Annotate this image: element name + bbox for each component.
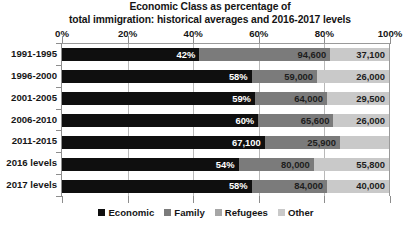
bar-segment-value-label: 67,100: [232, 138, 265, 147]
bar-segment-value-label: 80,000: [281, 160, 314, 169]
bar-segment-family[interactable]: 64,000: [255, 92, 327, 105]
bar-segment-other[interactable]: 29,500: [327, 92, 389, 105]
bar-segment-family[interactable]: 84,000: [252, 180, 327, 193]
bar-segment-economic[interactable]: 59%: [62, 92, 255, 105]
chart-title-line-2: total immigration: historical averages a…: [60, 14, 360, 27]
bar-segment-other[interactable]: 26,000: [333, 114, 389, 127]
bar-segment-value-label: 29,500: [356, 94, 389, 103]
bar-segment-economic[interactable]: 60%: [62, 114, 258, 127]
y-axis-category-labels: 1991-19951996-20002001-20052006-20102011…: [0, 43, 60, 196]
bar-segment-value-label: 60%: [235, 116, 258, 125]
bar-segment-economic[interactable]: 54%: [62, 158, 239, 171]
bar-row[interactable]: 58%84,00040,000: [62, 180, 389, 193]
legend-label: Economic: [108, 208, 154, 218]
chart-container: Economic Class as percentage of total im…: [0, 0, 412, 234]
bar-segment-value-label: 26,000: [356, 72, 389, 81]
bar-row[interactable]: 60%65,60026,000: [62, 114, 389, 127]
legend-item-family[interactable]: Family: [164, 208, 204, 218]
legend-label: Other: [288, 208, 314, 218]
legend-label: Family: [174, 208, 204, 218]
x-tickmark: [324, 196, 325, 203]
x-tickmark: [390, 36, 391, 44]
legend-swatch-icon: [164, 209, 171, 216]
bar-row[interactable]: 42%94,60037,100: [62, 48, 389, 61]
bar-segment-value-label: 59%: [232, 94, 255, 103]
bar-segment-value-label: 42%: [177, 50, 200, 59]
bar-segment-value-label: 58%: [229, 72, 252, 81]
bar-segment-value-label: 40,000: [356, 181, 389, 190]
bar-segment-family[interactable]: 59,000: [252, 70, 317, 83]
bar-segment-value-label: 94,600: [297, 50, 330, 59]
y-axis-category-label: 2017 levels: [6, 180, 57, 190]
legend-swatch-icon: [278, 209, 285, 216]
bar-segment-value-label: 58%: [229, 181, 252, 190]
y-axis-category-label: 2011-2015: [12, 136, 57, 146]
bar-segment-family[interactable]: 94,600: [199, 48, 330, 61]
bar-segment-economic[interactable]: 58%: [62, 70, 252, 83]
chart-title-line-1: Economic Class as percentage of: [60, 1, 360, 14]
bar-segment-value-label: 37,100: [356, 50, 389, 59]
bar-segment-family[interactable]: 80,000: [239, 158, 314, 171]
chart-title: Economic Class as percentage of total im…: [60, 1, 360, 26]
legend-swatch-icon: [98, 209, 105, 216]
bar-row[interactable]: 67,10025,900: [62, 136, 389, 149]
x-tickmark: [62, 196, 63, 203]
bar-segment-family[interactable]: 25,900: [265, 136, 340, 149]
bar-segment-value-label: 55,800: [356, 160, 389, 169]
bar-segment-economic[interactable]: 67,100: [62, 136, 265, 149]
bar-row[interactable]: 54%80,00055,800: [62, 158, 389, 171]
x-axis-bottom-tickmarks: [62, 196, 392, 203]
legend-item-other[interactable]: Other: [278, 208, 314, 218]
bar-segment-other[interactable]: 37,100: [330, 48, 389, 61]
bar-segment-value-label: 84,000: [294, 181, 327, 190]
x-tickmark: [259, 196, 260, 203]
bar-segment-value-label: 54%: [216, 160, 239, 169]
bar-segment-family[interactable]: 65,600: [258, 114, 333, 127]
bar-segment-value-label: 64,000: [294, 94, 327, 103]
x-tickmark: [128, 196, 129, 203]
bar-segment-value-label: 65,600: [301, 116, 334, 125]
legend-item-refugees[interactable]: Refugees: [215, 208, 268, 218]
y-axis-category-label: 2006-2010: [11, 115, 57, 125]
y-axis-category-label: 1991-1995: [11, 49, 57, 59]
bar-rows: 42%94,60037,10058%59,00026,00059%64,0002…: [62, 44, 389, 196]
bar-segment-other[interactable]: 40,000: [327, 180, 389, 193]
legend-swatch-icon: [215, 209, 222, 216]
chart-legend: EconomicFamilyRefugeesOther: [0, 208, 412, 218]
bar-segment-other[interactable]: 55,800: [314, 158, 389, 171]
bar-segment-value-label: 59,000: [284, 72, 317, 81]
bar-segment-economic[interactable]: 42%: [62, 48, 199, 61]
legend-item-economic[interactable]: Economic: [98, 208, 154, 218]
bar-segment-other[interactable]: 26,000: [317, 70, 389, 83]
bar-row[interactable]: 59%64,00029,500: [62, 92, 389, 105]
plot-area: 42%94,60037,10058%59,00026,00059%64,0002…: [62, 43, 390, 196]
bar-segment-economic[interactable]: 58%: [62, 180, 252, 193]
x-tickmark: [193, 196, 194, 203]
bar-segment-value-label: 25,900: [307, 138, 340, 147]
y-axis-category-label: 2016 levels: [6, 158, 57, 168]
x-tickmark: [390, 196, 391, 203]
bar-segment-other[interactable]: [340, 136, 389, 149]
y-axis-category-label: 1996-2000: [11, 71, 57, 81]
y-axis-category-label: 2001-2005: [11, 93, 57, 103]
legend-label: Refugees: [225, 208, 268, 218]
bar-row[interactable]: 58%59,00026,000: [62, 70, 389, 83]
bar-segment-value-label: 26,000: [356, 116, 389, 125]
